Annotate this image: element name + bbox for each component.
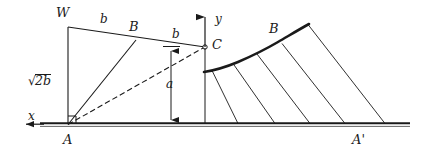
label-point-b-right: B [269,22,279,35]
segment-ac-dashed [68,48,204,125]
label-point-a: A [63,133,72,146]
ground-baseline [40,123,410,126]
radicand: 2b [35,74,51,88]
label-point-c: C [212,38,222,51]
label-point-w: W [56,6,69,19]
label-axis-y: y [215,13,222,25]
label-axis-x: x [28,110,35,122]
label-point-b-left: B [129,20,139,33]
label-segment-bc: b [172,28,180,40]
label-side-wa: √2b [28,74,51,88]
label-segment-wb: b [100,13,108,25]
segment-ab [68,40,136,125]
geometry-figure: W b B b C y x √2b a A B A' [0,0,426,159]
label-height-a: a [166,78,173,90]
radiating-chords [212,25,385,124]
label-point-a-prime: A' [352,133,365,146]
